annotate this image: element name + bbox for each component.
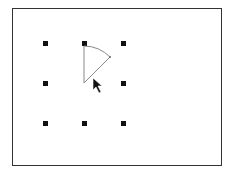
sector-shape (0, 0, 231, 174)
mouse-pointer-icon (93, 78, 102, 93)
